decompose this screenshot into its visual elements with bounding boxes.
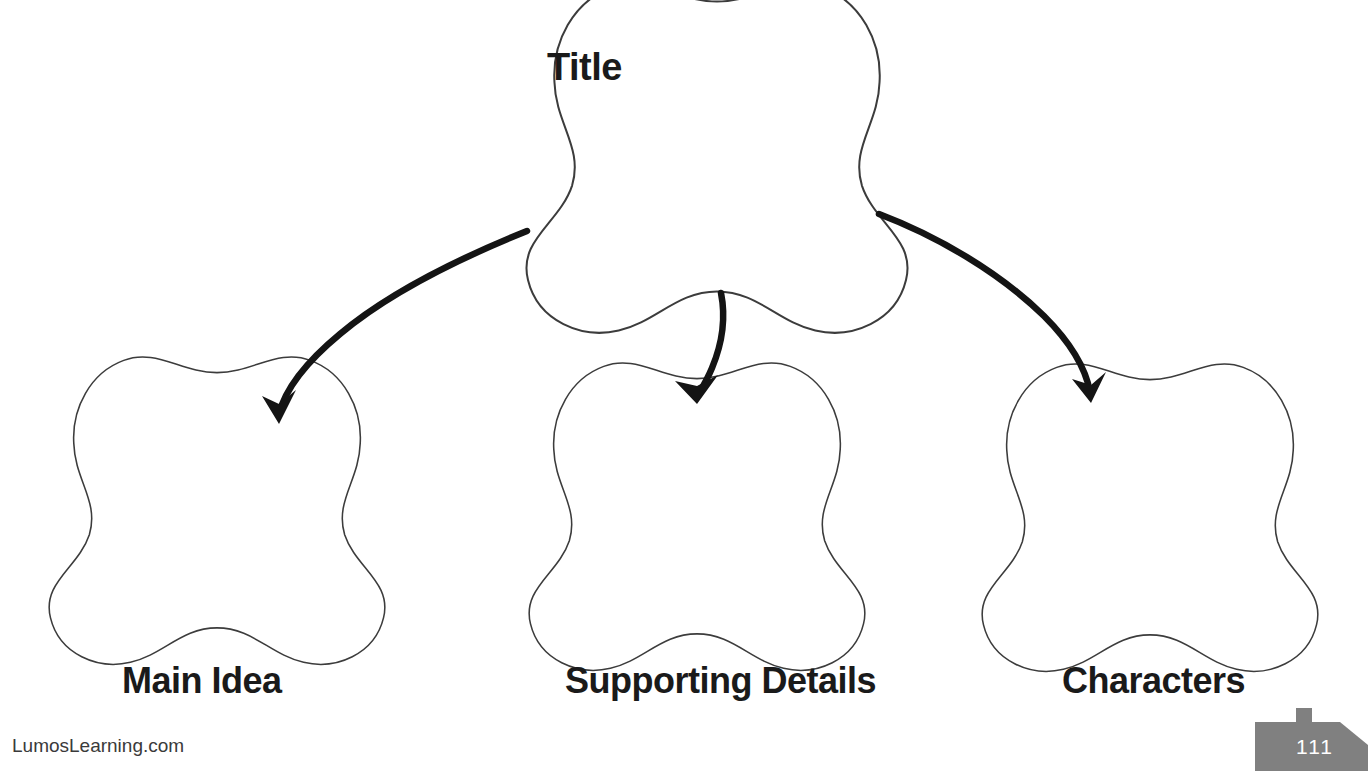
bubble-characters[interactable] — [982, 364, 1318, 671]
node-label-supporting-details: Supporting Details — [565, 663, 876, 699]
footer-website-url[interactable]: LumosLearning.com — [12, 735, 184, 757]
worksheet-page: Title Main Idea Supporting Details Chara… — [0, 0, 1368, 771]
badge-notch — [1296, 708, 1312, 724]
bubble-main-idea[interactable] — [49, 357, 385, 664]
diagram-canvas — [0, 0, 1368, 771]
page-number-text: 111 — [1280, 736, 1350, 757]
bubble-main-idea-outline — [49, 357, 385, 664]
bubble-supporting-details-outline — [529, 363, 865, 670]
node-label-title: Title — [547, 48, 622, 86]
node-label-characters: Characters — [1062, 663, 1245, 699]
bubble-characters-outline — [982, 364, 1318, 671]
node-label-main-idea: Main Idea — [122, 663, 282, 699]
bubble-supporting-details[interactable] — [529, 363, 865, 670]
